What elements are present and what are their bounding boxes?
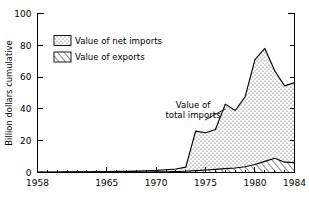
x-tick-label: 1984: [283, 178, 306, 188]
legend-swatch-exports: [54, 52, 71, 62]
legend-swatch-net-imports: [54, 36, 71, 46]
y-tick-label: 80: [20, 41, 32, 51]
y-tick-label: 60: [20, 72, 32, 82]
cumulative-imports-exports-area-chart: 020406080100 195819651970197519801984 Bi…: [0, 0, 309, 202]
x-tick-label: 1958: [26, 178, 49, 188]
y-tick-label: 0: [26, 168, 32, 178]
y-tick-label: 20: [20, 136, 32, 146]
x-axis-tick-labels: 195819651970197519801984: [26, 178, 306, 188]
x-tick-label: 1975: [194, 178, 217, 188]
y-tick-label: 40: [20, 104, 32, 114]
chart-container: 020406080100 195819651970197519801984 Bi…: [0, 0, 309, 202]
x-tick-label: 1970: [145, 178, 168, 188]
legend-label-net-imports: Value of net imports: [75, 36, 163, 46]
annotation-line-1: Value of: [176, 100, 212, 110]
x-tick-label: 1980: [244, 178, 267, 188]
y-tick-label: 100: [14, 9, 31, 19]
x-tick-label: 1965: [95, 178, 118, 188]
y-axis-title: Billion dollars cumulative: [4, 40, 14, 145]
y-axis-tick-labels: 020406080100: [14, 9, 31, 178]
annotation-line-2: total imports: [165, 110, 221, 120]
legend-label-exports: Value of exports: [75, 52, 145, 62]
